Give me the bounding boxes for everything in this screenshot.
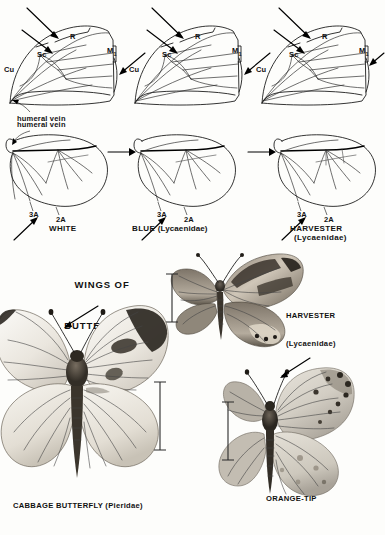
orange-tip-right-hindwing bbox=[271, 432, 338, 496]
anal-vein-label-3a-1: 3A bbox=[29, 211, 39, 219]
hindwing-caption-blue: BLUE (Lycaenidae) bbox=[132, 225, 208, 234]
specimen-caption-harvester: HARVESTER (Lycaenidae) bbox=[286, 292, 336, 368]
anal-vein-label-3a-3: 3A bbox=[297, 211, 307, 219]
vein-label-cu-2: Cu bbox=[129, 66, 139, 74]
vein-label-r-3: R bbox=[322, 33, 328, 41]
page-title-line1: WINGS OF bbox=[47, 278, 157, 292]
cabbage-left-hindwing bbox=[1, 384, 75, 467]
specimen-caption-cabbage-butterfly: CABBAGE BUTTERFLY (Pieridae) bbox=[13, 501, 143, 510]
vein-label-sc-2: Sc bbox=[162, 51, 172, 59]
cabbage-antenna-pointer-arrow bbox=[64, 306, 98, 328]
forewing-white-drawing bbox=[10, 8, 117, 112]
humeral-vein-label-hindwing: humeral vein bbox=[17, 121, 66, 129]
harvester-right-hindwing bbox=[224, 302, 285, 347]
forewing-harvester-drawing bbox=[262, 8, 369, 105]
forewing-diagram-row bbox=[0, 0, 385, 130]
forewing-blue-drawing bbox=[135, 8, 242, 105]
vein-label-cu-1: Cu bbox=[4, 66, 14, 74]
butterfly-wings-plate: R Sc M1 Cu humeral vein R Sc M1 Cu R Sc … bbox=[0, 0, 385, 535]
cabbage-scale-bar bbox=[150, 378, 170, 458]
anal-vein-label-3a-2: 3A bbox=[157, 211, 167, 219]
forewing-harvester-right-arrow bbox=[369, 53, 384, 66]
hindwing-caption-harvester-family: (Lycaenidae) bbox=[294, 234, 347, 243]
harvester-left-hindwing bbox=[176, 303, 217, 334]
vein-label-m1-1: M1 bbox=[107, 47, 117, 57]
vein-label-sc-1: Sc bbox=[37, 51, 47, 59]
specimen-caption-orange-tip: ORANGE-TIP bbox=[266, 494, 317, 503]
vein-label-sc-3: Sc bbox=[289, 51, 299, 59]
cabbage-right-hindwing bbox=[79, 384, 158, 468]
vein-label-m1-2: M1 bbox=[232, 47, 242, 57]
vein-label-cu-3: Cu bbox=[256, 66, 266, 74]
vein-label-r-2: R bbox=[195, 33, 201, 41]
hindwing-blue-to-harvester-arrow bbox=[248, 148, 276, 156]
specimen-caption-harvester-line2: (Lycaenidae) bbox=[286, 339, 336, 348]
orange-tip-scale-bar bbox=[218, 398, 238, 468]
specimen-orange-tip-photo bbox=[228, 362, 378, 502]
hindwing-white-to-blue-arrow bbox=[108, 148, 136, 156]
cabbage-left-forewing bbox=[0, 310, 70, 393]
orange-tip-right-forewing bbox=[276, 368, 354, 440]
vein-label-r-1: R bbox=[70, 33, 76, 41]
specimen-caption-harvester-line1: HARVESTER bbox=[286, 311, 336, 320]
vein-label-m1-3: M1 bbox=[359, 47, 369, 57]
hindwing-caption-white: WHITE bbox=[49, 225, 77, 234]
